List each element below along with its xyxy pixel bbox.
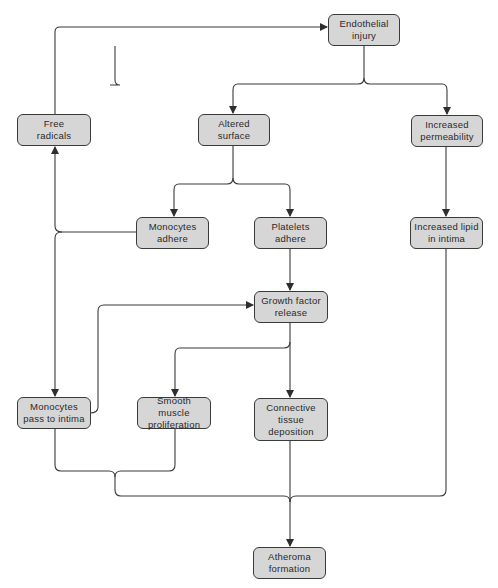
edge-merge-left [115, 477, 290, 502]
edge-altered-to-platelets-adhere [233, 178, 290, 216]
node-label: Smooth muscle proliferation [140, 395, 208, 431]
edge-growth-to-smooth-muscle [175, 323, 290, 396]
node-label: Platelets adhere [271, 221, 309, 245]
edge-endothelial-to-permeability [364, 78, 447, 114]
node-label: Increased lipid in intima [414, 221, 478, 245]
connector-lines [0, 0, 498, 588]
edge-monocytes-adhere-branch [55, 226, 136, 232]
node-altered-surface: Altered surface [198, 114, 270, 146]
edge-monocytes-pass-down [55, 429, 115, 477]
node-platelets-adhere: Platelets adhere [254, 217, 327, 249]
edge-altered-to-monocytes-adhere [174, 146, 233, 216]
edge-to-monocytes-pass [55, 232, 62, 396]
node-growth-factor-release: Growth factor release [254, 291, 328, 323]
node-label: Connective tissue deposition [266, 402, 316, 438]
node-label: Monocytes pass to intima [23, 401, 84, 425]
node-label: Growth factor release [261, 295, 321, 319]
edge-free-radicals-to-endothelial-injury [55, 27, 327, 114]
node-atheroma-formation: Atheroma formation [253, 547, 326, 579]
node-label: Altered surface [218, 118, 251, 142]
node-increased-permeability: Increased permeability [411, 115, 483, 147]
node-label: Endothelial injury [339, 18, 388, 42]
node-monocytes-pass-to-intima: Monocytes pass to intima [17, 397, 91, 429]
edge-endothelial-to-altered [233, 46, 364, 113]
node-connective-tissue-deposition: Connective tissue deposition [254, 398, 328, 441]
node-label: Increased permeability [420, 119, 474, 143]
node-increased-lipid: Increased lipid in intima [410, 217, 483, 249]
edge-endothelial-injury-stem [110, 80, 120, 85]
node-monocytes-adhere: Monocytes adhere [136, 217, 209, 249]
node-smooth-muscle-proliferation: Smooth muscle proliferation [137, 397, 211, 429]
edge-smooth-muscle-down [115, 429, 175, 477]
node-free-radicals: Free radicals [17, 114, 91, 146]
node-label: Free radicals [37, 118, 71, 142]
node-endothelial-injury: Endothelial injury [328, 14, 400, 46]
node-label: Atheroma formation [268, 551, 311, 575]
node-label: Monocytes adhere [149, 221, 197, 245]
edge-lipid-down [290, 249, 446, 502]
